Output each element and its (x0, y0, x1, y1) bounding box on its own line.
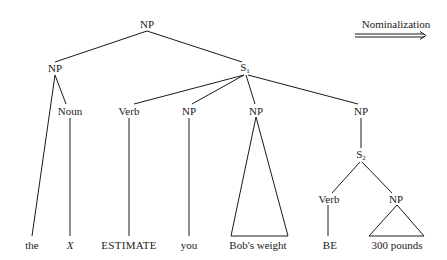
leaf-bobs-weight: Bob's weight (229, 240, 286, 251)
node-np-left: NP (48, 63, 62, 74)
branch-s1-verb (134, 75, 244, 104)
branch-s1-np-right (248, 75, 358, 104)
double-right-arrow-icon (355, 32, 426, 40)
branch-np-noun (55, 75, 66, 104)
node-np-bob: NP (249, 106, 263, 117)
branch-root-s1 (147, 31, 242, 62)
branch-root-np-left (55, 31, 147, 62)
node-verb-estimate: Verb (119, 106, 140, 117)
node-s2: S2 (356, 149, 366, 162)
branch-s1-np-you (192, 75, 244, 104)
node-np-you: NP (182, 106, 196, 117)
branch-s2-verb (332, 162, 360, 193)
leaf-the: the (25, 240, 38, 251)
leaf-x: X (67, 240, 74, 251)
node-np-right: NP (354, 106, 368, 117)
syntax-tree-diagram: Nominalization NP NP S1 Noun Verb NP NP … (0, 0, 447, 260)
triangle-bobs-weight (231, 117, 288, 236)
branch-s2-np (362, 162, 392, 193)
branch-s1-np-bob (246, 75, 255, 104)
tree-branches (0, 0, 447, 260)
leaf-you: you (181, 240, 198, 251)
branch-np-the (32, 75, 55, 236)
nominalization-label: Nominalization (362, 19, 430, 30)
leaf-be: BE (323, 240, 338, 251)
node-verb-be: Verb (319, 194, 340, 205)
leaf-300-pounds: 300 pounds (371, 240, 422, 251)
node-root-np: NP (140, 19, 154, 30)
node-s1: S1 (240, 62, 250, 75)
triangle-300-pounds (369, 205, 424, 236)
node-np-pounds: NP (389, 194, 403, 205)
node-noun: Noun (58, 106, 82, 117)
leaf-estimate: ESTIMATE (101, 240, 157, 251)
